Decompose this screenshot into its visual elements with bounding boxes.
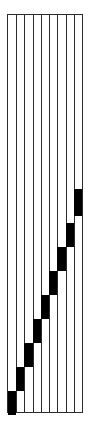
column-6 <box>49 15 57 412</box>
figure-root <box>0 0 91 424</box>
column-block-6 <box>49 271 57 295</box>
column-block-1 <box>8 391 16 415</box>
column-block-2 <box>16 367 24 391</box>
column-block-4 <box>33 319 41 343</box>
column-5 <box>41 15 49 412</box>
column-4 <box>33 15 41 412</box>
column-7 <box>57 15 65 412</box>
column-3 <box>24 15 32 412</box>
column-block-3 <box>24 343 32 367</box>
column-block-7 <box>57 247 65 271</box>
column-9 <box>74 15 82 412</box>
grid-frame <box>7 14 83 413</box>
column-1 <box>8 15 16 412</box>
column-block-9 <box>74 189 82 216</box>
column-8 <box>66 15 74 412</box>
column-block-5 <box>41 295 49 319</box>
column-block-8 <box>66 223 74 247</box>
column-2 <box>16 15 24 412</box>
